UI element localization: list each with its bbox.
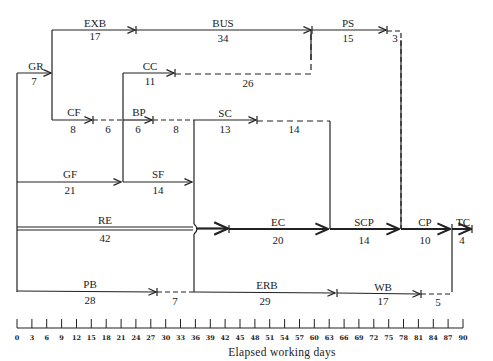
label-ps-duration: 15: [343, 32, 355, 44]
svg-text:48: 48: [250, 334, 260, 342]
svg-text:60: 60: [310, 334, 320, 342]
label-bp-code: BP: [132, 106, 145, 118]
label-cc-float: 26: [243, 77, 255, 89]
svg-text:15: 15: [87, 334, 97, 342]
label-gf-duration: 21: [65, 184, 76, 196]
time-axis-ticks: [17, 319, 463, 328]
svg-text:90: 90: [458, 334, 468, 342]
label-cf-duration: 8: [70, 123, 76, 135]
axis-title: Elapsed working days: [228, 346, 336, 359]
label-cc-code: CC: [143, 60, 158, 72]
label-cp-duration: 10: [420, 234, 432, 246]
svg-text:69: 69: [354, 334, 364, 342]
label-bus-duration: 34: [218, 32, 230, 44]
svg-text:21: 21: [117, 334, 126, 342]
label-scp-code: SCP: [354, 216, 374, 228]
label-re-code: RE: [98, 214, 112, 226]
label-exb-duration: 17: [90, 30, 102, 42]
svg-text:30: 30: [161, 334, 171, 342]
svg-text:9: 9: [59, 334, 64, 342]
svg-text:66: 66: [340, 334, 350, 342]
label-ec-code: EC: [271, 216, 285, 228]
svg-text:78: 78: [399, 334, 409, 342]
svg-text:33: 33: [176, 334, 186, 342]
label-cf-code: CF: [67, 106, 80, 118]
label-ps-float: 3: [392, 32, 398, 44]
activity-pb-arrow: [17, 291, 156, 292]
label-cp-code: CP: [418, 216, 431, 228]
svg-text:54: 54: [280, 334, 290, 342]
label-wb-float: 5: [435, 296, 441, 308]
label-gf-code: GF: [63, 168, 77, 180]
label-re-duration: 42: [100, 232, 111, 244]
svg-text:81: 81: [414, 334, 423, 342]
svg-text:87: 87: [444, 334, 453, 342]
svg-text:36: 36: [191, 334, 201, 342]
svg-text:24: 24: [131, 334, 141, 342]
svg-text:63: 63: [325, 334, 335, 342]
axis-tick-labels: 0 3 6 9 12 15 18 21 24 27 30 33 36 39 42…: [15, 334, 468, 342]
svg-text:51: 51: [265, 334, 274, 342]
label-scp-duration: 14: [359, 234, 371, 246]
label-erb-duration: 29: [260, 295, 272, 307]
svg-text:3: 3: [30, 334, 35, 342]
label-ec-duration: 20: [273, 234, 285, 246]
label-bp-float: 8: [173, 123, 179, 135]
label-sc-code: SC: [218, 107, 231, 119]
svg-text:84: 84: [429, 334, 439, 342]
svg-text:18: 18: [102, 334, 112, 342]
svg-text:45: 45: [235, 334, 245, 342]
label-pb-float: 7: [172, 295, 178, 307]
svg-text:12: 12: [72, 334, 81, 342]
svg-text:27: 27: [146, 334, 155, 342]
label-gr-code: GR: [28, 60, 44, 72]
svg-text:6: 6: [44, 334, 49, 342]
float-ps-dash: [387, 31, 401, 229]
label-erb-code: ERB: [256, 279, 277, 291]
label-ps-code: PS: [342, 17, 354, 29]
activity-wb-arrow: [337, 293, 420, 294]
svg-text:72: 72: [369, 334, 378, 342]
label-sc-duration: 13: [220, 123, 232, 135]
svg-text:75: 75: [384, 334, 394, 342]
label-tc-duration: 4: [459, 234, 465, 246]
label-wb-code: WB: [374, 281, 392, 293]
float-cc-dash: [175, 30, 311, 74]
activity-erb-arrow: [194, 292, 335, 293]
label-sc-float: 14: [289, 123, 301, 135]
label-pb-duration: 28: [85, 294, 97, 306]
svg-text:39: 39: [206, 334, 216, 342]
label-cf-float: 6: [105, 123, 111, 135]
label-tc-code: TC: [456, 216, 470, 228]
label-bus-code: BUS: [212, 17, 233, 29]
label-sf-duration: 14: [153, 184, 165, 196]
network-diagram: 0 3 6 9 12 15 18 21 24 27 30 33 36 39 42…: [0, 0, 493, 361]
svg-text:42: 42: [221, 334, 230, 342]
label-pb-code: PB: [83, 278, 96, 290]
svg-text:0: 0: [15, 334, 20, 342]
svg-text:57: 57: [295, 334, 304, 342]
label-gr-duration: 7: [31, 75, 37, 87]
label-cc-duration: 11: [145, 75, 156, 87]
label-wb-duration: 17: [378, 295, 390, 307]
label-exb-code: EXB: [84, 17, 106, 29]
label-bp-duration: 6: [135, 123, 141, 135]
label-sf-code: SF: [152, 168, 164, 180]
